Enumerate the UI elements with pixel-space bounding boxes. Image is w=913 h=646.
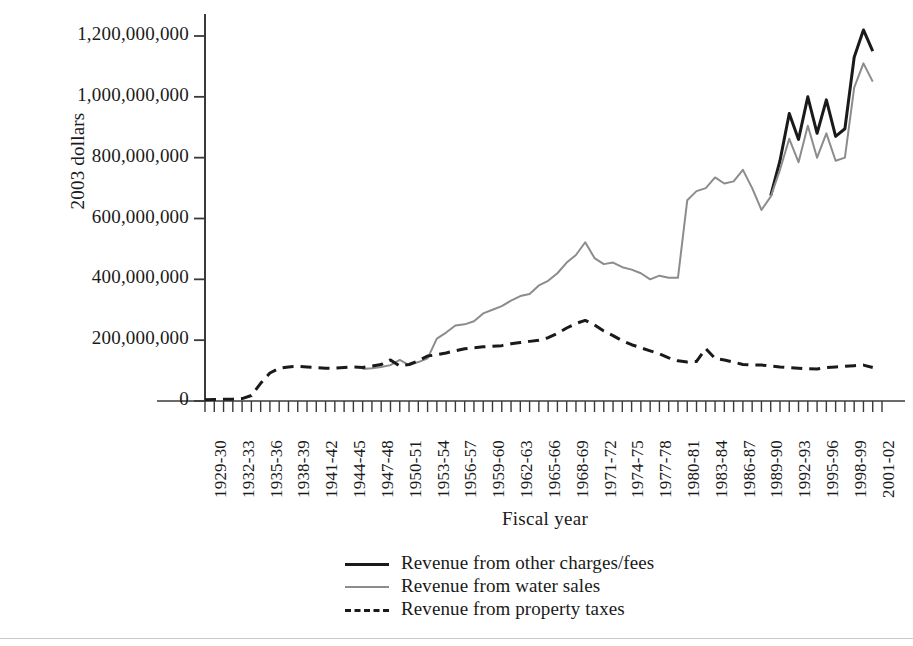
y-tick-label: 1,200,000,000	[77, 23, 189, 45]
x-tick-label: 1986-87	[740, 440, 760, 498]
chart-legend: Revenue from other charges/feesRevenue f…	[345, 551, 815, 620]
x-tick-label: 1998-99	[851, 440, 871, 498]
y-tick-label: 600,000,000	[92, 206, 189, 228]
y-tick-label: 0	[179, 388, 189, 410]
x-tick-label: 1950-51	[406, 440, 426, 498]
x-tick-label: 1932-33	[239, 440, 259, 498]
x-tick-label: 1953-54	[434, 440, 454, 498]
x-tick-label: 1962-63	[517, 440, 537, 498]
solid-black-line-icon	[345, 556, 389, 570]
x-tick-label: 1974-75	[628, 440, 648, 498]
x-tick-label: 1938-39	[294, 440, 314, 498]
page-rule	[0, 638, 913, 639]
y-tick-label: 200,000,000	[92, 327, 189, 349]
dashed-black-line-icon	[345, 602, 389, 616]
x-tick-label: 1995-96	[823, 440, 843, 498]
legend-item: Revenue from other charges/fees	[345, 551, 815, 574]
x-tick-label: 1992-93	[795, 440, 815, 498]
x-tick-label: 1965-66	[545, 440, 565, 498]
x-tick-label: 1944-45	[350, 440, 370, 498]
solid-gray-line-icon	[345, 579, 389, 593]
x-tick-label: 1980-81	[684, 440, 704, 498]
y-tick-label: 1,000,000,000	[77, 84, 189, 106]
legend-item-label: Revenue from water sales	[401, 575, 600, 597]
y-tick-label: 800,000,000	[92, 145, 189, 167]
x-tick-label: 1959-60	[489, 440, 509, 498]
y-tick-label: 400,000,000	[92, 266, 189, 288]
x-tick-label: 2001-02	[879, 440, 899, 498]
legend-item: Revenue from property taxes	[345, 597, 815, 620]
x-tick-label: 1971-72	[601, 440, 621, 498]
x-tick-label: 1935-36	[267, 440, 287, 498]
x-tick-label: 1929-30	[211, 440, 231, 498]
legend-item-label: Revenue from other charges/fees	[401, 552, 654, 574]
series-line-2	[205, 320, 873, 399]
x-tick-label: 1968-69	[573, 440, 593, 498]
x-tick-label: 1947-48	[378, 440, 398, 498]
x-tick-label: 1956-57	[461, 440, 481, 498]
x-tick-label: 1983-84	[712, 440, 732, 498]
series-line-1	[363, 63, 873, 369]
legend-item-label: Revenue from property taxes	[401, 598, 625, 620]
x-tick-label: 1977-78	[656, 440, 676, 498]
revenue-line-chart: 2003 dollars Fiscal year 0200,000,000400…	[0, 0, 913, 646]
series-line-0	[771, 30, 873, 196]
x-tick-label: 1941-42	[322, 440, 342, 498]
legend-item: Revenue from water sales	[345, 574, 815, 597]
x-tick-label: 1989-90	[767, 440, 787, 498]
